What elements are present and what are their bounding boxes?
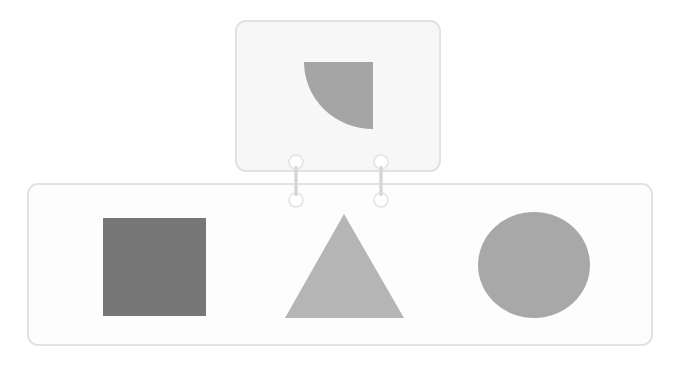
left-connector [289, 155, 303, 207]
right-connector [374, 155, 388, 207]
diagram-canvas [0, 0, 680, 368]
triangle-shape [285, 214, 404, 318]
circle-shape [478, 212, 590, 318]
quarter-circle-shape [304, 62, 373, 129]
square-shape [103, 218, 206, 316]
